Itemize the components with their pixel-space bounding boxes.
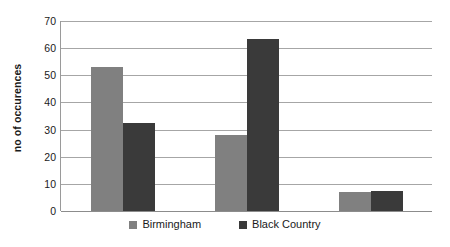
y-axis-title: no of occurences [6, 0, 28, 215]
axis-baseline [61, 211, 432, 212]
y-axis-tick-label: 50 [44, 70, 56, 81]
legend-entry: Black Country [239, 219, 320, 230]
y-axis-title-text: no of occurences [11, 63, 23, 152]
legend-label: Birmingham [142, 219, 201, 230]
bar [247, 39, 279, 211]
y-axis-tick-label: 30 [44, 124, 56, 135]
bar [339, 192, 371, 211]
bars-layer [61, 21, 432, 211]
y-axis-tick-label: 60 [44, 43, 56, 54]
legend-swatch-icon [239, 221, 247, 229]
y-axis-tick-label: 0 [50, 206, 56, 217]
legend-entry: Birmingham [129, 219, 201, 230]
bar [123, 123, 155, 211]
bar-chart: no of occurences 706050403020100 Birming… [0, 0, 450, 247]
y-axis-tick-label: 70 [44, 16, 56, 27]
chart-legend: BirminghamBlack Country [0, 219, 450, 230]
bar [91, 67, 123, 211]
y-axis-tick-label: 40 [44, 97, 56, 108]
plot-area [60, 21, 432, 211]
y-axis-tick-label: 20 [44, 151, 56, 162]
y-axis-tick-label: 10 [44, 179, 56, 190]
legend-label: Black Country [252, 219, 320, 230]
legend-swatch-icon [129, 221, 137, 229]
bar [215, 135, 247, 211]
y-axis-tick-labels: 706050403020100 [28, 21, 56, 211]
bar [371, 191, 403, 211]
